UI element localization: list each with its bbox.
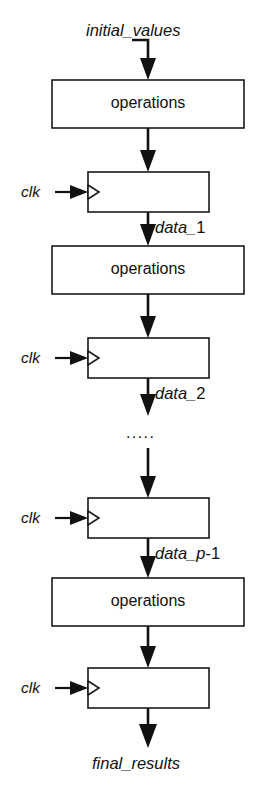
- pipeline-ellipsis: .....: [126, 425, 155, 441]
- data-p-minus-1-label: data_p-1: [155, 545, 220, 562]
- clock-arrow-1: [55, 185, 88, 199]
- data-1-index: 1: [196, 218, 205, 236]
- operations-label-1: operations: [52, 95, 244, 111]
- flow-arrow-ops2-to-reg2: [140, 294, 156, 338]
- data-2-label: data_2: [155, 385, 205, 402]
- clk-label-3: clk: [21, 510, 40, 526]
- register-box-3: [88, 498, 209, 538]
- data-p-prefix: data_: [155, 544, 196, 562]
- flow-arrow-ops3-to-reg4: [140, 626, 156, 668]
- input-arrow-initial-values: [132, 40, 156, 80]
- output-arrow-final-results: [139, 708, 157, 748]
- flow-arrow-ops1-to-reg1: [140, 128, 156, 172]
- data-2-index: 2: [196, 384, 205, 402]
- diagram-canvas: [0, 0, 266, 793]
- register-box-4: [88, 668, 209, 708]
- clk-label-1: clk: [21, 184, 40, 200]
- operations-label-2: operations: [52, 261, 244, 277]
- pipeline-diagram: initial_values operations data_1 operati…: [0, 0, 266, 793]
- input-signal-label: initial_values: [86, 22, 180, 39]
- clock-arrow-2: [55, 351, 88, 365]
- flow-arrow-reg2-to-ellipsis: [140, 378, 156, 416]
- flow-arrow-reg1-to-ops2: [140, 212, 156, 246]
- flow-arrow-reg3-to-ops3: [140, 538, 156, 578]
- register-box-1: [88, 172, 209, 212]
- data-1-prefix: data_: [155, 218, 196, 236]
- operations-label-3: operations: [52, 593, 244, 609]
- register-box-2: [88, 338, 209, 378]
- data-2-prefix: data_: [155, 384, 196, 402]
- clk-label-2: clk: [21, 350, 40, 366]
- clk-label-4: clk: [21, 680, 40, 696]
- clock-arrow-4: [55, 681, 88, 695]
- data-p-suffix: -1: [205, 544, 220, 562]
- output-signal-label: final_results: [92, 755, 180, 772]
- data-1-label: data_1: [155, 219, 205, 236]
- clock-arrow-3: [55, 511, 88, 525]
- flow-arrow-ellipsis-to-reg3: [140, 448, 156, 498]
